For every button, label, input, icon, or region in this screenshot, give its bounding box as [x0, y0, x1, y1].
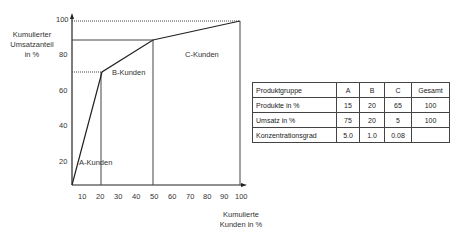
table-cell: Konzentrationsgrad [253, 128, 337, 143]
table-cell: 65 [385, 98, 412, 113]
table-cell: 75 [337, 113, 360, 128]
x-tick: 20 [96, 192, 104, 201]
table-header-cell: A [337, 83, 360, 98]
table-cell: 100 [412, 98, 450, 113]
table-row: Produkte in % 15 20 65 100 [253, 98, 450, 113]
table-cell: 5 [385, 113, 412, 128]
table-header-cell: B [360, 83, 385, 98]
table-header-cell: Gesamt [412, 83, 450, 98]
x-tick: 90 [220, 192, 228, 201]
x-tick: 70 [186, 192, 194, 201]
segment-label-a: A-Kunden [79, 158, 112, 167]
x-tick: 30 [114, 192, 122, 201]
table-header-cell: Produktgruppe [253, 83, 337, 98]
table-cell: 20 [360, 113, 385, 128]
table-header-cell: C [385, 83, 412, 98]
x-tick: 60 [168, 192, 176, 201]
table-cell: 5.0 [337, 128, 360, 143]
table-cell: 100 [412, 113, 450, 128]
abc-summary-table: Produktgruppe A B C Gesamt Produkte in %… [252, 82, 450, 143]
table-cell: 15 [337, 98, 360, 113]
x-tick: 80 [203, 192, 211, 201]
x-tick: 40 [132, 192, 140, 201]
table-cell: 20 [360, 98, 385, 113]
y-tick: 20 [59, 157, 67, 166]
x-tick: 100 [235, 192, 248, 201]
y-tick: 40 [59, 121, 67, 130]
y-axis-label-line: Umsatzanteil [2, 40, 62, 50]
x-axis-label-line: Kumulierte [206, 210, 276, 220]
table-cell [412, 128, 450, 143]
x-axis-label: Kumulierte Kunden in % [206, 210, 276, 230]
x-tick: 10 [78, 192, 86, 201]
segment-label-b: B-Kunden [112, 68, 145, 77]
table-row: Umsatz in % 75 20 5 100 [253, 113, 450, 128]
y-axis-label-line: Kumulierter [2, 30, 62, 40]
y-axis-label-line: in % [2, 50, 62, 60]
y-tick: 80 [59, 50, 67, 59]
y-tick: 100 [56, 15, 69, 24]
table-cell: Produkte in % [253, 98, 337, 113]
table-cell: 0.08 [385, 128, 412, 143]
table-header-row: Produktgruppe A B C Gesamt [253, 83, 450, 98]
abc-analysis-chart: Kumulierter Umsatzanteil in % 100 80 60 … [0, 0, 250, 236]
table-cell: Umsatz in % [253, 113, 337, 128]
table-cell: 1.0 [360, 128, 385, 143]
x-tick: 50 [150, 192, 158, 201]
y-tick: 60 [59, 86, 67, 95]
x-axis-label-line: Kunden in % [206, 220, 276, 230]
y-axis-label: Kumulierter Umsatzanteil in % [2, 30, 62, 60]
segment-label-c: C-Kunden [185, 50, 219, 59]
table-row: Konzentrationsgrad 5.0 1.0 0.08 [253, 128, 450, 143]
